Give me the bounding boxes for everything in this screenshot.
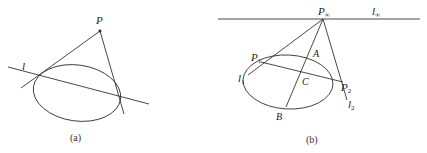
label-p-infinity: P∞ <box>317 5 330 19</box>
label-p2: P2 <box>340 81 352 95</box>
figure-a: P l (a) <box>8 14 149 144</box>
label-c: C <box>302 76 309 87</box>
polar-line-l <box>8 67 149 104</box>
label-b: B <box>276 111 282 122</box>
label-l2: l2 <box>348 98 355 112</box>
diagram-canvas: P l (a) P∞ l∞ P1 P2 l1 l2 A C B (b) <box>0 0 427 153</box>
figure-b: P∞ l∞ P1 P2 l1 l2 A C B (b) <box>218 5 420 146</box>
label-l-infinity: l∞ <box>372 5 380 19</box>
label-p1: P1 <box>250 51 262 65</box>
conic-ellipse-a <box>30 59 125 127</box>
label-p: P <box>95 14 103 26</box>
label-a: A <box>312 48 320 59</box>
tangent-line-l1 <box>248 19 323 75</box>
tangent-line-a-left <box>21 31 100 88</box>
label-l: l <box>22 60 25 72</box>
pole-point-p <box>99 30 102 33</box>
caption-b: (b) <box>306 134 318 146</box>
caption-a: (a) <box>70 132 81 144</box>
